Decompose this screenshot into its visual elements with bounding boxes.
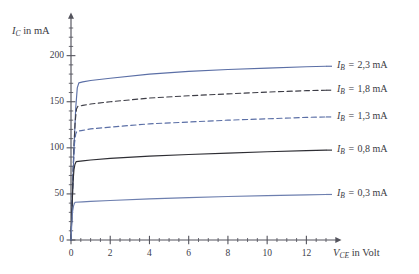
legend-unit: mA	[373, 110, 388, 121]
y-tick-label-200: 200	[30, 51, 64, 61]
legend-value: 1,8	[358, 83, 371, 94]
legend-subscript: B	[340, 114, 345, 123]
legend-equals: =	[346, 83, 357, 94]
legend-item-ib-1-3: IB = 1,3mA	[337, 111, 388, 122]
legend-equals: =	[346, 59, 357, 70]
legend-value: 0,3	[358, 187, 371, 198]
y-tick-label-0: 0	[30, 235, 64, 245]
legend-value: 0,8	[358, 143, 371, 154]
y-axis-unit-text: in mA	[23, 25, 50, 36]
x-tick-label-0: 0	[57, 249, 85, 259]
curve-ib-2-3	[71, 66, 326, 240]
legend-item-ib-2-3: IB = 2,3mA	[337, 60, 388, 71]
y-tick-label-100: 100	[30, 143, 64, 153]
legend-unit: mA	[373, 187, 388, 198]
curve-ib-1-8	[71, 90, 326, 240]
legend-unit: mA	[373, 143, 388, 154]
legend-leader-layer	[326, 66, 332, 194]
transistor-output-characteristics-chart: IC in mA VCE in Volt 050100150200 024681…	[0, 0, 419, 274]
y-axis-subscript: C	[16, 29, 21, 38]
x-axis-subscript: CE	[339, 251, 349, 260]
legend-item-ib-0-3: IB = 0,3mA	[337, 188, 388, 199]
x-tick-label-2: 2	[96, 249, 124, 259]
legend-item-ib-1-8: IB = 1,8mA	[337, 84, 388, 95]
x-tick-label-4: 4	[135, 249, 163, 259]
legend-subscript: B	[340, 87, 345, 96]
x-tick-label-12: 12	[292, 249, 320, 259]
legend-value: 2,3	[358, 59, 371, 70]
legend-subscript: B	[340, 191, 345, 200]
axis-layer	[67, 18, 336, 244]
x-tick-label-10: 10	[253, 249, 281, 259]
legend-subscript: B	[340, 147, 345, 156]
legend-subscript: B	[340, 63, 345, 72]
legend-equals: =	[346, 143, 357, 154]
legend-unit: mA	[373, 83, 388, 94]
legend-equals: =	[346, 187, 357, 198]
y-tick-label-50: 50	[30, 189, 64, 199]
curve-ib-0-3	[71, 194, 326, 240]
legend-unit: mA	[373, 59, 388, 70]
legend-equals: =	[346, 110, 357, 121]
y-tick-label-150: 150	[30, 97, 64, 107]
x-tick-label-8: 8	[214, 249, 242, 259]
curve-ib-1-3	[71, 117, 326, 240]
legend-item-ib-0-8: IB = 0,8mA	[337, 144, 388, 155]
x-axis-title: VCE in Volt	[333, 248, 380, 259]
chart-plot-area	[0, 0, 419, 274]
legend-value: 1,3	[358, 110, 371, 121]
x-axis-unit-text: in Volt	[352, 247, 380, 258]
y-axis-title: IC in mA	[12, 26, 50, 37]
x-tick-label-6: 6	[175, 249, 203, 259]
curve-layer	[71, 66, 326, 240]
